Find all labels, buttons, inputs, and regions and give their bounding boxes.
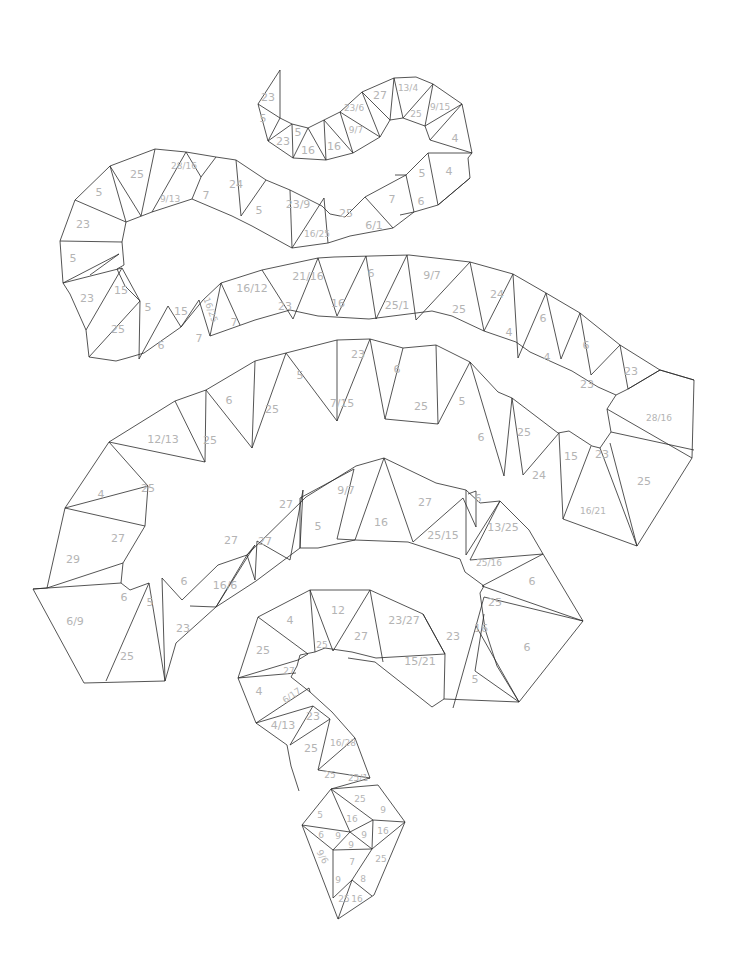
region-color-number: 28/16 <box>646 414 672 423</box>
region-color-number: 25 <box>304 743 318 754</box>
region-color-number: 29 <box>66 554 80 565</box>
region-color-number: 23 <box>276 136 290 147</box>
region-color-number: 27 <box>258 536 272 547</box>
region-color-number: 12 <box>331 605 345 616</box>
region-color-number: 25 <box>111 324 125 335</box>
region-color-number: 4/13 <box>271 720 296 731</box>
region-color-number: 27 <box>373 90 387 101</box>
region-color-number: 6 <box>583 340 590 351</box>
region-color-number: 28/16 <box>171 162 197 171</box>
region-color-number: 25/16 <box>476 559 502 568</box>
region-color-number: 7 <box>389 194 396 205</box>
region-color-number: 16 <box>377 827 388 836</box>
region-color-number: 15 <box>174 306 188 317</box>
region-color-number: 6 <box>121 592 128 603</box>
region-color-number: 9 <box>348 841 354 850</box>
region-color-number: 5 <box>260 113 267 124</box>
region-color-number: 16 <box>351 895 362 904</box>
region-color-number: 6 <box>226 395 233 406</box>
region-color-number: 25/15 <box>427 530 459 541</box>
region-color-number: 5 <box>459 396 466 407</box>
region-color-number: 25 <box>517 427 531 438</box>
second-band <box>210 255 694 395</box>
region-color-number: 23 <box>278 301 292 312</box>
region-color-number: 25 <box>256 645 270 656</box>
region-color-number: 25 <box>120 651 134 662</box>
region-color-number: 25 <box>338 895 349 904</box>
region-color-number: 9/7 <box>337 485 355 496</box>
region-color-number: 4 <box>287 615 294 626</box>
region-color-number: 7 <box>196 333 203 344</box>
region-color-number: 25 <box>141 483 155 494</box>
region-color-number: 6 <box>475 493 482 504</box>
region-color-number: 6 <box>529 576 536 587</box>
region-color-number: 6 <box>318 831 324 840</box>
region-color-number: 16 <box>327 141 341 152</box>
region-color-number: 16/12 <box>236 283 268 294</box>
region-color-number: 5 <box>472 674 479 685</box>
region-color-number: 27 <box>111 533 125 544</box>
region-color-number: 5 <box>256 205 263 216</box>
region-color-number: 24 <box>490 289 504 300</box>
region-color-number: 4 <box>256 686 263 697</box>
region-color-number: 6 <box>478 432 485 443</box>
region-color-number: 24 <box>532 470 546 481</box>
region-color-number: 23/6 <box>344 104 364 113</box>
region-color-number: 5 <box>145 302 152 313</box>
region-color-number: 23 <box>261 92 275 103</box>
region-color-number: 13/4 <box>398 84 418 93</box>
region-color-number: 23 <box>446 631 460 642</box>
region-color-number: 25 <box>265 404 279 415</box>
region-color-number: 25 <box>130 169 144 180</box>
region-color-number: 7/15 <box>330 398 355 409</box>
region-color-number: 16/21 <box>580 507 606 516</box>
region-color-number: 25 <box>488 597 502 608</box>
region-color-number: 5 <box>419 168 426 179</box>
region-color-number: 5 <box>295 127 302 138</box>
region-color-number: 5 <box>96 187 103 198</box>
paint-by-number-canvas: 23523516169/723/62713/4259/1545476256/12… <box>0 0 734 979</box>
region-color-number: 25/1 <box>385 300 410 311</box>
region-color-number: 6/9 <box>66 616 84 627</box>
region-color-number: 27 <box>279 499 293 510</box>
region-color-number: 5 <box>315 521 322 532</box>
region-color-number: 27 <box>354 631 368 642</box>
region-color-number: 15/21 <box>404 656 436 667</box>
region-color-number: 9 <box>335 876 341 885</box>
region-color-number: 25 <box>410 110 421 119</box>
region-color-number: 25/1 <box>348 774 368 783</box>
region-color-number: 25 <box>203 435 217 446</box>
region-color-number: 6 <box>394 364 401 375</box>
region-color-number: 16 <box>474 623 488 634</box>
region-color-number: 25 <box>452 304 466 315</box>
region-color-number: 16/28 <box>330 739 356 748</box>
region-color-number: 23 <box>76 219 90 230</box>
region-color-number: 25 <box>354 795 365 804</box>
region-color-number: 25 <box>414 401 428 412</box>
region-color-number: 23 <box>580 379 594 390</box>
region-color-number: 9 <box>335 832 341 841</box>
region-color-number: 6 <box>181 576 188 587</box>
region-color-number: 23 <box>624 366 638 377</box>
region-color-number: 4 <box>506 327 513 338</box>
region-color-number: 25 <box>339 208 353 219</box>
region-color-number: 15 <box>114 285 128 296</box>
upper-loop-segment <box>60 149 393 361</box>
region-color-number: 23 <box>306 711 320 722</box>
region-color-number: 16 <box>301 145 315 156</box>
region-color-number: 24 <box>229 179 243 190</box>
region-color-number: 4 <box>544 352 551 363</box>
region-color-number: 23 <box>80 293 94 304</box>
region-color-number: 23 <box>351 349 365 360</box>
region-color-number: 4 <box>446 166 453 177</box>
region-color-number: 23/27 <box>388 615 420 626</box>
region-color-number: 9/7 <box>423 270 441 281</box>
region-color-number: 15 <box>564 451 578 462</box>
region-color-number: 6 <box>540 313 547 324</box>
region-color-number: 4 <box>98 489 105 500</box>
region-color-number: 5 <box>297 370 304 381</box>
region-color-number: 7 <box>203 190 210 201</box>
region-color-number: 5 <box>147 597 154 608</box>
region-color-number: 9 <box>361 831 367 840</box>
region-color-number: 5 <box>70 253 77 264</box>
